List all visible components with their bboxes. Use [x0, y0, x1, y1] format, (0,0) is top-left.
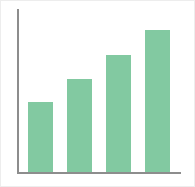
bar-series-0-category-2[interactable] [106, 55, 131, 172]
bar-chart-figure [0, 0, 195, 187]
x-axis-line [17, 172, 181, 174]
bar-series-0-category-1[interactable] [67, 79, 92, 172]
bar-series-0-category-3[interactable] [145, 30, 170, 172]
bar-series-0-category-0[interactable] [28, 102, 53, 172]
plot-area [1, 1, 195, 187]
y-axis-line [17, 9, 19, 174]
